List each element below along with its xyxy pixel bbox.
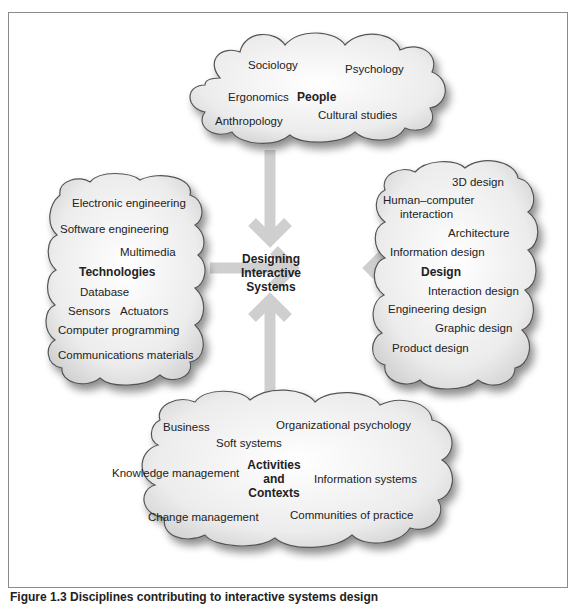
center-label-line-1: Designing — [236, 252, 306, 266]
people-item-ergonomics: Ergonomics — [228, 90, 289, 104]
design-item-human-computer: Human–computer — [383, 193, 474, 207]
activities-item-information-systems: Information systems — [314, 472, 417, 486]
activities-title-line-3: Contexts — [238, 486, 310, 500]
activities-title-line-2: and — [238, 472, 310, 486]
people-title: People — [297, 90, 336, 104]
center-label-line-3: Systems — [236, 280, 306, 294]
activities-item-change-management: Change management — [148, 510, 259, 524]
technologies-item-multimedia: Multimedia — [120, 245, 176, 259]
activities-item-soft-systems: Soft systems — [216, 436, 282, 450]
design-title: Design — [421, 265, 461, 279]
technologies-item-database: Database — [80, 285, 129, 299]
technologies-item-actuators: Actuators — [120, 304, 169, 318]
people-item-psychology: Psychology — [345, 62, 404, 76]
design-item-product-design: Product design — [392, 341, 469, 355]
activities-item-organizational-psychology: Organizational psychology — [276, 418, 411, 432]
design-item-information-design: Information design — [390, 245, 485, 259]
technologies-item-communications-materials: Communications materials — [58, 348, 194, 362]
technologies-item-computer-programming: Computer programming — [58, 323, 179, 337]
design-item-engineering-design: Engineering design — [388, 302, 486, 316]
arrow-up-icon — [252, 300, 288, 405]
technologies-item-electronic-engineering: Electronic engineering — [72, 196, 186, 210]
arrow-down-icon — [252, 150, 288, 240]
design-item-interaction: interaction — [400, 207, 453, 221]
design-item-3d-design: 3D design — [452, 175, 504, 189]
people-item-sociology: Sociology — [248, 58, 298, 72]
activities-item-knowledge-management: Knowledge management — [112, 466, 239, 480]
activities-title-line-1: Activities — [238, 458, 310, 472]
activities-item-communities-of-practice: Communities of practice — [290, 508, 413, 522]
activities-title: Activities and Contexts — [238, 458, 310, 500]
people-item-cultural-studies: Cultural studies — [318, 108, 397, 122]
design-item-architecture: Architecture — [448, 226, 509, 240]
activities-item-business: Business — [163, 420, 210, 434]
technologies-item-sensors: Sensors — [68, 304, 110, 318]
technologies-title: Technologies — [79, 265, 155, 279]
figure-caption: Figure 1.3 Disciplines contributing to i… — [10, 590, 378, 604]
technologies-item-software-engineering: Software engineering — [60, 222, 169, 236]
center-label-line-2: Interactive — [236, 266, 306, 280]
center-label: Designing Interactive Systems — [236, 252, 306, 294]
design-item-interaction-design: Interaction design — [428, 284, 519, 298]
design-item-graphic-design: Graphic design — [435, 321, 512, 335]
people-item-anthropology: Anthropology — [215, 114, 283, 128]
